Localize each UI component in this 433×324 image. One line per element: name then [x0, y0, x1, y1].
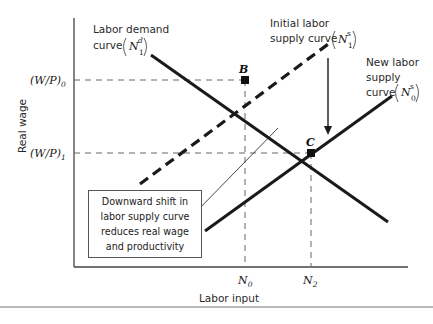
annotation-line: Downward shift in	[89, 194, 201, 209]
x-axis-title: Labor input	[199, 292, 259, 304]
arrow-down-icon	[324, 126, 332, 135]
y-axis-title: Real wage	[16, 99, 28, 153]
annotation-leader	[196, 128, 278, 212]
demand-sup: d	[138, 36, 143, 45]
new-sup: s	[410, 82, 414, 91]
annotation-line: and productivity	[89, 239, 201, 254]
initial-sup: s	[347, 29, 351, 38]
initial-label-line1: Initial labor	[270, 17, 330, 29]
paren-left-icon	[396, 84, 399, 102]
xtick-n2: N2	[302, 274, 318, 289]
point-b-label: B	[238, 63, 248, 76]
paren-right-icon	[144, 38, 147, 56]
demand-sub: 1	[139, 48, 144, 57]
new-label-line3: curve	[366, 86, 395, 98]
labor-market-diagram: B C (W/P)0 (W/P)1 N0 N2 Labor input Real…	[0, 0, 433, 324]
annotation-line: reduces real wage	[89, 224, 201, 239]
demand-label-line2: curve	[93, 39, 122, 51]
demand-label-line1: Labor demand	[93, 23, 169, 35]
annotation-line: labor supply curve	[89, 209, 201, 224]
new-label-line2: supply	[366, 71, 401, 83]
annotation-box: Downward shift in labor supply curve red…	[88, 190, 202, 258]
paren-right-icon	[353, 31, 356, 49]
initial-sub: 1	[348, 41, 353, 50]
point-c-label: C	[306, 136, 315, 149]
paren-right-icon	[416, 84, 419, 102]
xtick-n0: N0	[237, 274, 253, 289]
initial-label-line2: supply curve	[270, 32, 337, 44]
point-b-marker	[241, 76, 249, 84]
paren-left-icon	[124, 38, 127, 56]
ytick-wp1: (W/P)1	[30, 147, 66, 162]
new-sub: 0	[411, 94, 416, 103]
point-c-marker	[307, 149, 315, 157]
ytick-wp0: (W/P)0	[30, 74, 66, 89]
new-label-line1: New labor	[366, 56, 420, 68]
